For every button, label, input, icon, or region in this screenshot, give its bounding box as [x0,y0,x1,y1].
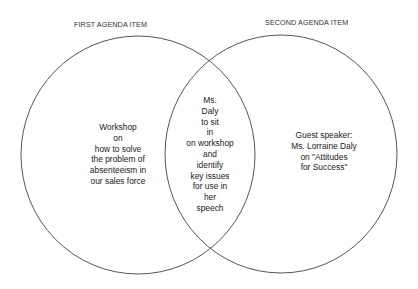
text-line: and [170,149,250,160]
text-line: Workshop [58,122,178,133]
text-line: how to solve [58,144,178,155]
first-agenda-content: Workshop on how to solve the problem of … [58,122,178,187]
text-line: for Success" [268,162,380,173]
second-agenda-title: SECOND AGENDA ITEM [265,18,348,27]
text-line: to sit [170,117,250,128]
text-line: on [58,133,178,144]
text-line: the problem of [58,154,178,165]
text-line: Ms. Lorraine Daly [268,141,380,152]
intersection-content: Ms. Daly to sit in on workshop and ident… [170,95,250,214]
text-line: key issues [170,171,250,182]
text-line: her [170,192,250,203]
text-line: Guest speaker: [268,130,380,141]
text-line: for use in [170,181,250,192]
text-line: absenteeism in [58,165,178,176]
text-line: on "Attitudes [268,152,380,163]
text-line: Ms. [170,95,250,106]
text-line: on workshop [170,138,250,149]
text-line: in [170,127,250,138]
text-line: identify [170,160,250,171]
text-line: our sales force [58,176,178,187]
text-line: speech [170,203,250,214]
second-agenda-content: Guest speaker: Ms. Lorraine Daly on "Att… [268,130,380,173]
text-line: Daly [170,106,250,117]
first-agenda-title: FIRST AGENDA ITEM [74,20,147,29]
